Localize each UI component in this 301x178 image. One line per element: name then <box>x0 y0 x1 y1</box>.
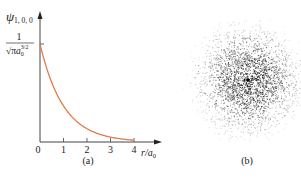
x-ticks: 01234 <box>36 138 137 155</box>
x-tick-label: 2 <box>85 144 90 155</box>
panel-b-electron-cloud: (b) <box>183 19 301 167</box>
x-tick-label: 4 <box>132 144 137 155</box>
y-axis-label: ψ1, 0, 0 <box>6 9 33 25</box>
wavefunction-curve <box>40 44 134 140</box>
x-tick-label: 1 <box>61 144 66 155</box>
x-tick-label: 3 <box>108 144 113 155</box>
x-tick-label: 0 <box>36 144 41 155</box>
nucleus-dot <box>246 78 250 82</box>
probability-cloud <box>183 19 301 142</box>
panel-b-caption: (b) <box>241 155 253 167</box>
y-tick-numerator: 1 <box>17 31 22 42</box>
figure: 01234 ψ1, 0, 0 1 √πa03/2 r/a0 (a) (b) <box>0 0 301 178</box>
x-axis-label: r/a0 <box>141 147 156 159</box>
y-axis-arrow-icon <box>38 11 43 19</box>
x-axis-arrow-icon <box>154 140 162 145</box>
y-tick-denominator: √πa03/2 <box>6 44 28 57</box>
panel-a-caption: (a) <box>82 155 93 167</box>
panel-a-wavefunction-plot: 01234 ψ1, 0, 0 1 √πa03/2 r/a0 (a) <box>6 9 162 167</box>
